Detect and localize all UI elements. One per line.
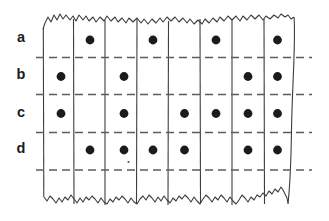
column-line	[168, 21, 169, 205]
column-line	[74, 19, 75, 204]
column-lines	[74, 19, 265, 205]
punch-dot-d4	[149, 146, 158, 155]
punch-dot-c3	[120, 109, 129, 118]
row-dashed-lines	[36, 58, 312, 171]
punched-tape-figure: a b c d	[0, 0, 329, 221]
punch-dot-b7	[244, 72, 253, 81]
punch-dot-d5	[180, 146, 189, 155]
punch-dot-b3	[120, 72, 129, 81]
row-label-c: c	[17, 104, 25, 120]
punch-dot-c6	[212, 109, 221, 118]
ink-speck	[127, 161, 129, 163]
punch-dot-a6	[212, 36, 221, 45]
punch-dot-d2	[86, 146, 95, 155]
punch-dot-c5	[180, 109, 189, 118]
row-label-a: a	[17, 29, 26, 45]
punch-dot-d3	[120, 146, 129, 155]
punch-dot-c8	[273, 109, 282, 118]
punch-dot-c1	[57, 109, 66, 118]
column-line	[200, 19, 201, 203]
punch-dot-a2	[86, 36, 95, 45]
punch-dot-a4	[149, 36, 158, 45]
punch-dot-b8	[273, 72, 282, 81]
punch-dot-a8	[273, 36, 282, 45]
punch-dot-d7	[244, 146, 253, 155]
row-label-b: b	[17, 66, 26, 82]
tape-diagram-svg: a b c d	[0, 0, 329, 221]
punch-dot-c7	[244, 109, 253, 118]
column-line	[137, 19, 138, 204]
column-line	[264, 19, 265, 204]
left-edge	[43, 28, 44, 197]
punch-dot-d8	[273, 146, 282, 155]
right-edge	[288, 17, 295, 204]
row-label-d: d	[17, 140, 26, 156]
torn-bottom-edge	[44, 187, 288, 204]
row-labels: a b c d	[17, 29, 26, 156]
punch-dot-b1	[57, 72, 66, 81]
